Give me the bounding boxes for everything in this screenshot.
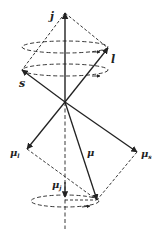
label-mu-s: μs <box>141 148 152 160</box>
label-mu-l: μl <box>10 147 20 159</box>
mu-l-vector <box>27 102 65 149</box>
label-s: s <box>19 77 25 90</box>
label-l: l <box>111 53 115 66</box>
label-mu-j: μj <box>52 179 62 192</box>
parallelogram-edge-right <box>97 152 137 200</box>
cone-edge-l <box>65 13 108 48</box>
label-mu: μ <box>87 147 94 158</box>
coupling-diagram: j l s μl μs μ μj <box>0 0 162 231</box>
mu-s-vector <box>65 102 137 152</box>
l-vector <box>65 48 108 102</box>
label-j: j <box>48 10 54 23</box>
